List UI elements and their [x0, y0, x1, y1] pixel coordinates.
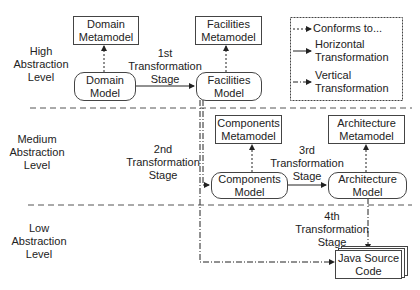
- facilities-model-node: Facilities Model: [196, 72, 262, 101]
- facilities-metamodel-node: Facilities Metamodel: [195, 16, 262, 45]
- legend-horizontal-label: Horizontal Transformation: [315, 38, 389, 64]
- stage-label-1st: 1st Transformation Stage: [128, 47, 202, 86]
- architecture-model-node: Architecture Model: [328, 172, 407, 199]
- level-label-high: High Abstraction Level: [8, 45, 74, 84]
- domain-metamodel-node: Domain Metamodel: [73, 16, 139, 45]
- level-label-low: Low Abstraction Level: [6, 222, 72, 261]
- stage-label-4th: 4th Transformation Stage: [295, 210, 369, 249]
- java-source-code-node: Java Source Code: [335, 250, 402, 279]
- legend-vertical-label: Vertical Transformation: [315, 69, 389, 95]
- legend-conforms-label: Conforms to...: [313, 22, 382, 35]
- components-model-node: Components Model: [211, 172, 288, 199]
- components-metamodel-node: Components Metamodel: [215, 115, 282, 144]
- stage-label-2nd: 2nd Transformation Stage: [126, 143, 200, 182]
- level-label-medium: Medium Abstraction Level: [4, 133, 70, 172]
- transform-arrow-2nd: [203, 100, 209, 185]
- domain-model-node: Domain Model: [74, 72, 136, 101]
- architecture-metamodel-node: Architecture Metamodel: [328, 115, 405, 144]
